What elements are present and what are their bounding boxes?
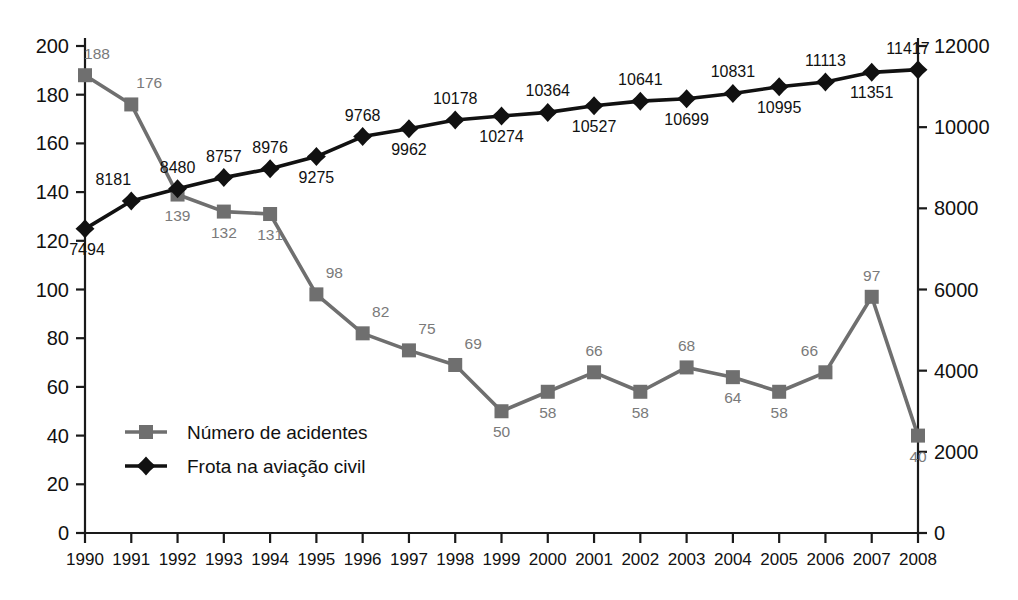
y-axis-right-tick-label: 10000 [934, 116, 990, 138]
data-label-accidents: 66 [801, 342, 818, 359]
data-label-fleet: 9275 [299, 169, 335, 186]
data-label-accidents: 97 [863, 267, 880, 284]
x-axis-tick-label: 1995 [297, 550, 335, 569]
data-label-fleet: 8181 [95, 171, 131, 188]
data-label-fleet: 10527 [572, 118, 617, 135]
y-axis-left-tick-label: 140 [36, 181, 69, 203]
data-label-accidents: 188 [84, 45, 110, 62]
data-label-accidents: 50 [493, 423, 511, 440]
y-axis-right-tick-label: 2000 [934, 441, 979, 463]
data-point-fleet[interactable] [909, 60, 928, 79]
data-point-accidents[interactable] [309, 287, 323, 301]
data-point-fleet[interactable] [261, 159, 280, 178]
data-label-fleet: 10699 [664, 111, 709, 128]
y-axis-left-tick-label: 200 [36, 35, 69, 57]
data-point-fleet[interactable] [862, 63, 881, 82]
y-axis-left-tick-label: 120 [36, 230, 69, 252]
data-point-accidents[interactable] [726, 370, 740, 384]
legend-label: Frota na aviação civil [187, 456, 365, 477]
data-point-fleet[interactable] [214, 168, 233, 187]
data-point-fleet[interactable] [76, 219, 95, 238]
data-point-fleet[interactable] [492, 107, 511, 126]
data-label-accidents: 66 [585, 342, 602, 359]
data-label-fleet: 8757 [206, 148, 242, 165]
x-axis-tick-label: 2003 [668, 550, 706, 569]
data-label-accidents: 68 [678, 337, 695, 354]
x-axis-tick-label: 2008 [899, 550, 937, 569]
data-label-fleet: 11351 [850, 84, 893, 101]
y-axis-right-tick-label: 8000 [934, 197, 979, 219]
data-label-fleet: 9768 [345, 107, 381, 124]
data-label-fleet: 7494 [69, 241, 105, 258]
data-point-fleet[interactable] [399, 119, 418, 138]
data-point-accidents[interactable] [78, 68, 92, 82]
data-point-accidents[interactable] [495, 404, 509, 418]
data-label-fleet: 9962 [391, 141, 427, 158]
data-point-fleet[interactable] [307, 147, 326, 166]
x-axis-tick-label: 2002 [621, 550, 659, 569]
x-axis-tick-label: 1999 [483, 550, 521, 569]
data-point-accidents[interactable] [356, 326, 370, 340]
data-point-accidents[interactable] [772, 385, 786, 399]
y-axis-left-tick-label: 0 [58, 522, 69, 544]
chart-canvas: 0204060801001201401601802000200040006000… [0, 0, 1018, 600]
data-label-accidents: 58 [632, 404, 649, 421]
data-point-accidents[interactable] [911, 429, 925, 443]
data-point-accidents[interactable] [263, 207, 277, 221]
legend-item[interactable]: Frota na aviação civil [125, 456, 365, 477]
data-point-accidents[interactable] [541, 385, 555, 399]
data-point-accidents[interactable] [680, 360, 694, 374]
x-axis-tick-label: 2006 [807, 550, 845, 569]
data-label-accidents: 82 [372, 303, 389, 320]
x-axis-tick-label: 2004 [714, 550, 752, 569]
data-label-fleet: 10641 [618, 71, 663, 88]
data-label-accidents: 139 [165, 207, 191, 224]
data-point-fleet[interactable] [585, 96, 604, 115]
data-label-accidents: 58 [771, 404, 788, 421]
data-label-accidents: 132 [211, 224, 237, 241]
x-axis-tick-label: 2007 [853, 550, 891, 569]
x-axis-tick-label: 1998 [436, 550, 474, 569]
data-label-fleet: 10274 [479, 128, 524, 145]
x-axis-tick-label: 1992 [159, 550, 197, 569]
y-axis-left-tick-label: 100 [36, 279, 69, 301]
y-axis-left-tick-label: 20 [47, 473, 69, 495]
data-point-fleet[interactable] [723, 84, 742, 103]
dual-axis-line-chart: 0204060801001201401601802000200040006000… [0, 0, 1018, 600]
data-label-fleet: 11417 [886, 40, 929, 57]
data-point-fleet[interactable] [446, 110, 465, 129]
data-point-accidents[interactable] [448, 358, 462, 372]
x-axis-tick-label: 2005 [760, 550, 798, 569]
y-axis-left-tick-label: 160 [36, 132, 69, 154]
data-point-fleet[interactable] [770, 77, 789, 96]
data-point-accidents[interactable] [124, 97, 138, 111]
y-axis-left-tick-label: 60 [47, 376, 69, 398]
data-label-accidents: 75 [418, 320, 435, 337]
y-axis-left-tick-label: 40 [47, 425, 69, 447]
data-point-fleet[interactable] [538, 103, 557, 122]
x-axis-tick-label: 1996 [344, 550, 382, 569]
x-axis-tick-label: 1991 [112, 550, 150, 569]
legend-item[interactable]: Número de acidentes [125, 422, 368, 443]
y-axis-right-tick-label: 6000 [934, 279, 979, 301]
data-point-fleet[interactable] [122, 191, 141, 210]
data-point-accidents[interactable] [402, 343, 416, 357]
data-label-fleet: 10831 [711, 63, 756, 80]
data-label-accidents: 131 [257, 226, 283, 243]
data-label-accidents: 40 [909, 448, 927, 465]
data-point-fleet[interactable] [816, 72, 835, 91]
y-axis-right-tick-label: 0 [934, 522, 945, 544]
x-axis-tick-label: 1990 [66, 550, 104, 569]
data-point-accidents[interactable] [818, 365, 832, 379]
data-point-fleet[interactable] [631, 92, 650, 111]
data-point-accidents[interactable] [587, 365, 601, 379]
data-point-fleet[interactable] [353, 127, 372, 146]
data-point-accidents[interactable] [865, 290, 879, 304]
data-label-fleet: 11113 [805, 52, 846, 69]
data-point-accidents[interactable] [217, 205, 231, 219]
x-axis-tick-label: 2001 [575, 550, 613, 569]
legend-label: Número de acidentes [187, 422, 368, 443]
data-point-accidents[interactable] [633, 385, 647, 399]
x-axis-tick-label: 1993 [205, 550, 243, 569]
data-point-fleet[interactable] [677, 89, 696, 108]
